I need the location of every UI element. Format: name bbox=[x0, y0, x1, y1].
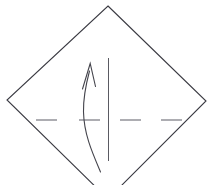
drawing-canvas bbox=[0, 0, 214, 185]
technical-drawing-svg bbox=[0, 0, 214, 185]
rotated-square-outline bbox=[7, 6, 206, 185]
upward-curved-arrow-shaft bbox=[83, 71, 100, 172]
arrow-head-icon bbox=[83, 64, 96, 90]
